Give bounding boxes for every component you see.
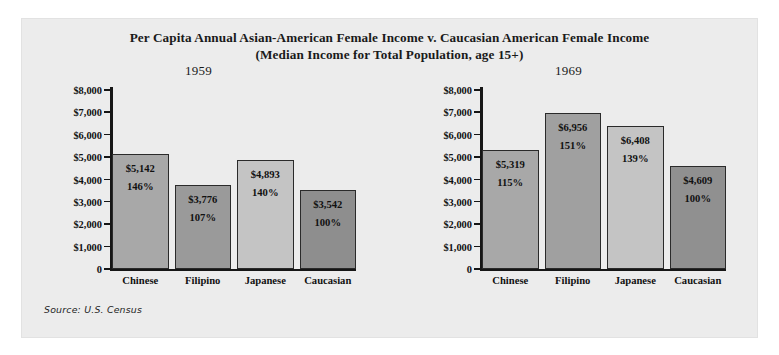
bar-value-label: $6,956 <box>546 122 601 133</box>
y-tick-mark <box>104 246 110 248</box>
y-tick-mark <box>474 156 480 158</box>
y-tick-label: $6,000 <box>73 129 102 140</box>
bar-chinese[interactable]: $5,319115%Chinese <box>482 150 539 269</box>
bar-percent-label: 107% <box>176 212 231 223</box>
bar-filipino[interactable]: $6,956151%Filipino <box>545 113 602 269</box>
chart-1959: 1959 $8,000$7,000$6,000$5,000$4,000$3,00… <box>26 63 371 303</box>
y-tick-mark <box>104 134 110 136</box>
y-tick-label: $5,000 <box>443 152 472 163</box>
bar-value-label: $3,542 <box>301 199 356 210</box>
y-tick-label: $6,000 <box>443 129 472 140</box>
y-tick-mark <box>474 179 480 181</box>
bar-percent-label: 151% <box>546 140 601 151</box>
bar-caucasian[interactable]: $4,609100%Caucasian <box>670 166 727 269</box>
y-tick-label: $3,000 <box>443 196 472 207</box>
y-tick-label: 0 <box>467 264 472 275</box>
y-tick-label: $2,000 <box>73 219 102 230</box>
bar-percent-label: 139% <box>608 153 663 164</box>
chart-1969-year-label: 1969 <box>396 63 741 79</box>
bar-value-label: $4,609 <box>671 175 726 186</box>
y-tick-mark <box>474 201 480 203</box>
y-tick-mark <box>104 268 110 270</box>
bar-japanese[interactable]: $6,408139%Japanese <box>607 126 664 269</box>
y-tick-mark <box>474 223 480 225</box>
y-tick-label: $1,000 <box>443 241 472 252</box>
category-label-caucasian: Caucasian <box>289 275 368 286</box>
figure-title: Per Capita Annual Asian-American Female … <box>22 29 757 63</box>
bar-filipino[interactable]: $3,776107%Filipino <box>175 185 232 269</box>
bar-percent-label: 115% <box>483 177 538 188</box>
bar-value-label: $5,319 <box>483 159 538 170</box>
figure-canvas: Per Capita Annual Asian-American Female … <box>0 0 779 355</box>
bar-percent-label: 100% <box>671 193 726 204</box>
bar-percent-label: 146% <box>113 181 168 192</box>
y-tick-mark <box>104 201 110 203</box>
y-tick-label: $4,000 <box>73 174 102 185</box>
source-note: Source: U.S. Census <box>44 304 142 315</box>
y-tick-mark <box>474 134 480 136</box>
chart-1969-plot-area: $8,000$7,000$6,000$5,000$4,000$3,000$2,0… <box>482 90 726 269</box>
y-tick-label: $5,000 <box>73 152 102 163</box>
y-tick-label: 0 <box>97 264 102 275</box>
y-tick-label: $4,000 <box>443 174 472 185</box>
chart-panel: Per Capita Annual Asian-American Female … <box>22 19 757 337</box>
y-tick-mark <box>104 179 110 181</box>
y-tick-mark <box>104 111 110 113</box>
y-tick-mark <box>474 111 480 113</box>
title-line-2: (Median Income for Total Population, age… <box>22 46 757 63</box>
chart-1969: 1969 $8,000$7,000$6,000$5,000$4,000$3,00… <box>396 63 741 303</box>
bar-percent-label: 100% <box>301 217 356 228</box>
bar-value-label: $6,408 <box>608 135 663 146</box>
y-tick-label: $8,000 <box>73 85 102 96</box>
y-tick-mark <box>474 268 480 270</box>
y-tick-label: $7,000 <box>73 107 102 118</box>
y-tick-mark <box>104 89 110 91</box>
bar-caucasian[interactable]: $3,542100%Caucasian <box>300 190 357 269</box>
bar-chinese[interactable]: $5,142146%Chinese <box>112 154 169 269</box>
chart-1959-plot-area: $8,000$7,000$6,000$5,000$4,000$3,000$2,0… <box>112 90 356 269</box>
bar-value-label: $3,776 <box>176 194 231 205</box>
y-tick-mark <box>474 246 480 248</box>
y-tick-mark <box>104 156 110 158</box>
bar-value-label: $4,893 <box>238 169 293 180</box>
y-tick-label: $3,000 <box>73 196 102 207</box>
bar-value-label: $5,142 <box>113 163 168 174</box>
y-tick-label: $1,000 <box>73 241 102 252</box>
y-tick-mark <box>474 89 480 91</box>
bar-japanese[interactable]: $4,893140%Japanese <box>237 160 294 269</box>
chart-1959-year-label: 1959 <box>26 63 371 79</box>
title-line-1: Per Capita Annual Asian-American Female … <box>22 29 757 46</box>
y-tick-label: $8,000 <box>443 85 472 96</box>
y-tick-label: $7,000 <box>443 107 472 118</box>
y-tick-label: $2,000 <box>443 219 472 230</box>
category-label-caucasian: Caucasian <box>659 275 738 286</box>
bar-percent-label: 140% <box>238 187 293 198</box>
y-tick-mark <box>104 223 110 225</box>
